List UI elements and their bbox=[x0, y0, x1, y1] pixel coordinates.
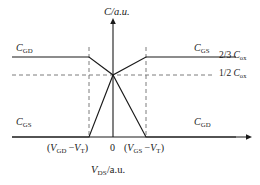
x-tick-label-vgd-minus-vt: (VGD −VT) bbox=[47, 143, 88, 153]
x-tick-label-vgs-minus-vt: (VGS −VT) bbox=[124, 143, 164, 153]
tick-right-s1: GS bbox=[133, 147, 142, 154]
curve-label-cgd-right-sym: C bbox=[194, 116, 201, 127]
level-label-two-thirds-cox: 2/3 Cox bbox=[219, 51, 247, 61]
level-half-sub: ox bbox=[240, 72, 247, 79]
curve-label-cgs-right-sym: C bbox=[194, 42, 201, 53]
x-axis-title-unit: /a.u. bbox=[107, 164, 125, 175]
curve-label-cgs-left-sub: GS bbox=[23, 121, 32, 128]
x-tick-label-origin: 0 bbox=[110, 143, 115, 153]
curve-label-cgd-right: CGD bbox=[194, 117, 211, 127]
curve-label-cgs-right: CGS bbox=[194, 43, 210, 53]
level-half-fraction: 1/2 bbox=[219, 68, 234, 78]
y-axis-title-text: C/a.u. bbox=[104, 6, 130, 17]
axes-group bbox=[12, 18, 252, 140]
curve-label-cgd-left-sub: GD bbox=[23, 47, 33, 54]
x-axis-title: VDS/a.u. bbox=[91, 165, 125, 176]
level-label-half-cox: 1/2 Cox bbox=[219, 69, 247, 79]
curve-label-cgd-left: CGD bbox=[16, 43, 33, 53]
level-half-sym: C bbox=[234, 68, 240, 78]
y-axis-arrowhead bbox=[110, 18, 116, 24]
curve-label-cgs-left-sym: C bbox=[16, 116, 23, 127]
tick-right-s2: T bbox=[156, 147, 160, 154]
tick-origin-text: 0 bbox=[110, 142, 115, 153]
x-axis-arrowhead bbox=[246, 134, 252, 140]
curve-label-cgs-right-sub: GS bbox=[201, 47, 210, 54]
level-two-thirds-sym: C bbox=[234, 50, 240, 60]
y-axis-title: C/a.u. bbox=[104, 7, 130, 18]
curve-label-cgs-left: CGS bbox=[16, 117, 32, 127]
plot-canvas bbox=[0, 0, 260, 185]
level-two-thirds-fraction: 2/3 bbox=[219, 50, 234, 60]
curve-label-cgd-right-sub: GD bbox=[201, 121, 211, 128]
tick-left-s1: GD bbox=[56, 147, 66, 154]
level-two-thirds-sub: ox bbox=[240, 54, 247, 61]
curve-label-cgd-left-sym: C bbox=[16, 42, 23, 53]
tick-left-s2: T bbox=[80, 147, 84, 154]
tick-right-close: ) bbox=[161, 142, 164, 153]
x-axis-title-sub: DS bbox=[97, 169, 107, 177]
capacitance-vs-vds-figure: C/a.u. VDS/a.u. CGD CGS CGS CGD 2/3 Cox … bbox=[0, 0, 260, 185]
tick-left-close: ) bbox=[85, 142, 88, 153]
